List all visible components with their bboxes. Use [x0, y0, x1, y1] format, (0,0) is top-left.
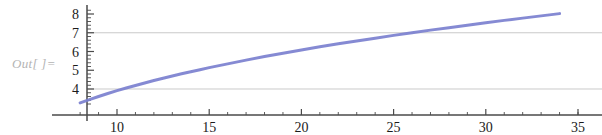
mathematica-output-cell: Out[ ]= 101520253035 45678 [0, 0, 602, 135]
data-curve [80, 14, 559, 103]
x-ticks-group [80, 109, 578, 115]
y-tick-label: 6 [72, 45, 79, 60]
y-tick-label: 8 [72, 7, 79, 22]
y-tick-label: 4 [72, 82, 79, 97]
y-tick-label: 5 [72, 63, 79, 78]
plot-container: 101520253035 45678 [0, 0, 602, 135]
x-tick-labels-group: 101520253035 [110, 120, 585, 135]
x-tick-label: 25 [387, 120, 401, 135]
x-tick-label: 15 [202, 120, 216, 135]
y-tick-label: 7 [72, 26, 79, 41]
data-curve-group [80, 14, 559, 103]
gridlines-group [88, 33, 602, 89]
y-ticks-group [87, 10, 94, 104]
x-tick-label: 30 [479, 120, 493, 135]
y-tick-labels-group: 45678 [72, 7, 79, 97]
x-tick-label: 20 [294, 120, 308, 135]
x-tick-label: 10 [110, 120, 124, 135]
plot-svg: 101520253035 45678 [0, 0, 602, 135]
x-tick-label: 35 [571, 120, 585, 135]
